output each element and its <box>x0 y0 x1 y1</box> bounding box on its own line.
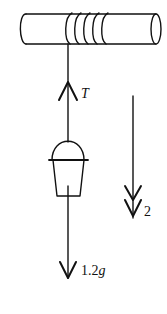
acceleration-label: 2 <box>144 205 151 219</box>
rope-coils <box>66 13 108 44</box>
weight-label-symbol: g <box>99 263 106 278</box>
weight-label: 1.2g <box>81 264 106 278</box>
physics-diagram: T 2 1.2g <box>0 0 167 314</box>
cylinder <box>20 14 161 44</box>
tension-label: T <box>81 87 89 101</box>
weight-label-number: 1.2 <box>81 263 99 278</box>
